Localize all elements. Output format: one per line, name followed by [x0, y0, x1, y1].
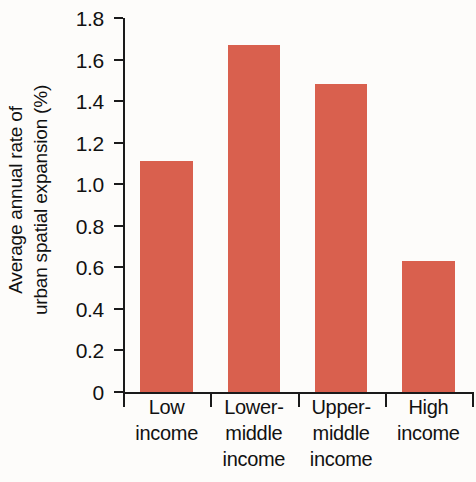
x-axis-category-label-line: income [369, 420, 476, 446]
bar-chart-figure: Average annual rate of urban spatial exp… [0, 0, 476, 482]
y-axis-tick-label: 0.4 [76, 298, 104, 319]
y-axis-tick-label: 0.2 [76, 340, 104, 361]
y-axis-tick [114, 308, 123, 310]
y-axis-tick [114, 225, 123, 227]
y-axis-title-line-1: Average annual rate of [3, 85, 28, 315]
y-axis-tick-label: 0.6 [76, 257, 104, 278]
x-axis-category-labels: LowincomeLower-middleincomeUpper-middlei… [123, 394, 472, 482]
y-axis-tick [114, 17, 123, 19]
y-axis-tick-label: 1.8 [76, 8, 104, 29]
bar [402, 261, 454, 392]
y-axis-tick [114, 266, 123, 268]
plot-area [123, 18, 472, 392]
y-axis-tick [114, 391, 123, 393]
y-axis-tick [114, 349, 123, 351]
y-axis-tick-label: 1.4 [76, 91, 104, 112]
y-axis-tick-label: 0.8 [76, 215, 104, 236]
y-axis-title-line-2: urban spatial expansion (%) [28, 85, 53, 315]
bar [228, 45, 280, 392]
y-axis-tick-label: 1.0 [76, 174, 104, 195]
y-axis-title: Average annual rate of urban spatial exp… [0, 0, 56, 400]
y-axis-tick-label: 0 [93, 382, 104, 403]
y-axis-tick [114, 142, 123, 144]
y-axis-tick-label: 1.6 [76, 49, 104, 70]
y-axis-tick [114, 183, 123, 185]
bar [140, 161, 192, 392]
y-axis-tick [114, 100, 123, 102]
x-axis-category-label-line: income [282, 446, 401, 472]
y-axis-tick-label: 1.2 [76, 132, 104, 153]
y-axis-tick-labels: 1.81.61.41.21.00.80.60.40.20 [56, 0, 110, 482]
bar [315, 84, 367, 392]
y-axis-line [123, 18, 125, 392]
y-axis-tick [114, 59, 123, 61]
x-axis-category-label-line: High [369, 394, 476, 420]
x-axis-category-label: Highincome [369, 394, 476, 446]
